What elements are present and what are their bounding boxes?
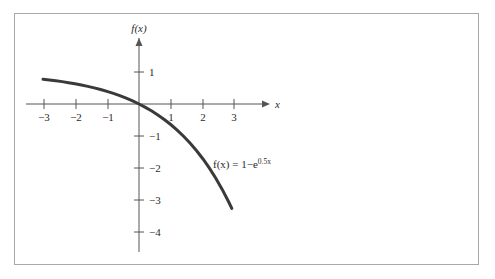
curve-annotation: f(x) = 1−e0.5x: [213, 157, 271, 171]
function-plot: −3 −2 −1 1 2 3 1 −1 −2 −3 −4 x f(x) f(x)…: [0, 0, 495, 279]
y-axis-arrowhead: [136, 38, 143, 46]
svg-text:f(x) = 1−e0.5x: f(x) = 1−e0.5x: [213, 157, 271, 171]
y-tick-label-neg2: −2: [149, 162, 161, 174]
y-tick-label-1: 1: [149, 66, 155, 78]
x-tick-label-neg2: −2: [70, 111, 82, 123]
x-tick-label-1: 1: [168, 111, 174, 123]
y-tick-label-neg4: −4: [149, 226, 161, 238]
x-tick-label-3: 3: [231, 111, 237, 123]
function-curve: [43, 79, 232, 208]
x-axis-label: x: [274, 98, 280, 110]
x-axis-arrowhead: [262, 101, 270, 108]
x-tick-label-neg3: −3: [38, 111, 50, 123]
y-axis-label: f(x): [131, 22, 147, 35]
x-tick-label-neg1: −1: [102, 111, 114, 123]
curve-label-exponent: 0.5x: [258, 157, 271, 166]
y-tick-label-neg3: −3: [149, 194, 161, 206]
figure-page: −3 −2 −1 1 2 3 1 −1 −2 −3 −4 x f(x) f(x)…: [0, 0, 495, 279]
y-tick-label-neg1: −1: [149, 130, 161, 142]
curve-label-text: f(x) = 1−e: [213, 158, 258, 171]
x-tick-label-2: 2: [200, 111, 206, 123]
